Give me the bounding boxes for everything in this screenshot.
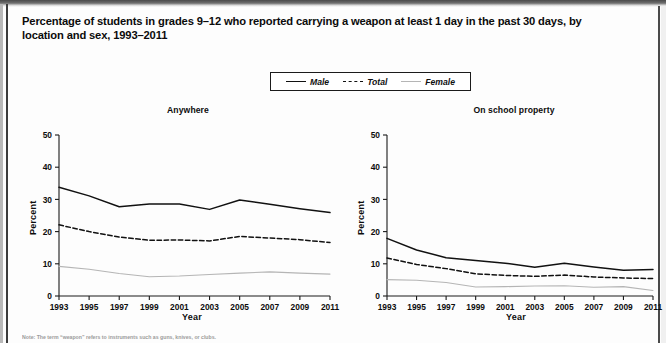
svg-text:50: 50	[43, 130, 53, 140]
svg-text:0: 0	[375, 291, 380, 301]
svg-text:1999: 1999	[466, 302, 485, 312]
legend-item-male: Male	[286, 77, 329, 87]
svg-text:2001: 2001	[496, 302, 515, 312]
svg-text:1995: 1995	[407, 302, 426, 312]
legend-label-male: Male	[310, 77, 329, 87]
y-axis-label-anywhere: Percent	[28, 201, 38, 235]
svg-text:30: 30	[43, 195, 53, 205]
svg-text:50: 50	[371, 130, 381, 140]
line-chart-anywhere: 0102030405019931995199719992001200320052…	[12, 100, 342, 335]
legend-line-female-icon	[401, 78, 421, 86]
svg-text:1997: 1997	[437, 302, 456, 312]
page-canvas: Percentage of students in grades 9–12 wh…	[0, 0, 666, 343]
svg-text:2007: 2007	[585, 302, 604, 312]
legend-line-total-icon	[343, 78, 363, 86]
chart-legend: Male Total Female	[270, 72, 471, 91]
line-chart-on-school-property: 0102030405019931995199719992001200320052…	[345, 100, 665, 335]
svg-text:2009: 2009	[614, 302, 633, 312]
svg-text:10: 10	[371, 259, 381, 269]
page-title-line1: Percentage of students in grades 9–12 wh…	[22, 15, 582, 41]
svg-text:20: 20	[43, 227, 53, 237]
chart-panel-anywhere: Anywhere 0102030405019931995199719992001…	[12, 100, 342, 335]
svg-text:2011: 2011	[644, 302, 663, 312]
svg-text:0: 0	[47, 291, 52, 301]
svg-text:2011: 2011	[321, 302, 340, 312]
chart-footnote: Note: The term “weapon” refers to instru…	[22, 334, 492, 340]
svg-text:2003: 2003	[525, 302, 544, 312]
svg-text:2003: 2003	[200, 302, 219, 312]
page-left-margin	[0, 4, 3, 343]
svg-text:2007: 2007	[260, 302, 279, 312]
svg-text:1999: 1999	[140, 302, 159, 312]
svg-text:1995: 1995	[80, 302, 99, 312]
legend-item-female: Female	[401, 77, 455, 87]
svg-text:1993: 1993	[378, 302, 397, 312]
svg-text:2005: 2005	[555, 302, 574, 312]
page-left-border	[6, 4, 8, 343]
svg-text:40: 40	[43, 162, 53, 172]
legend-item-total: Total	[343, 77, 387, 87]
page-title: Percentage of students in grades 9–12 wh…	[22, 14, 622, 42]
legend-label-female: Female	[425, 77, 455, 87]
x-axis-label-on-school-property: Year	[345, 312, 665, 322]
svg-text:10: 10	[43, 259, 53, 269]
svg-text:30: 30	[371, 195, 381, 205]
svg-text:2001: 2001	[170, 302, 189, 312]
legend-line-male-icon	[286, 78, 306, 86]
page-top-edge	[0, 0, 666, 7]
y-axis-label-on-school-property: Percent	[356, 201, 366, 235]
svg-text:20: 20	[371, 227, 381, 237]
svg-text:2005: 2005	[230, 302, 249, 312]
svg-text:2009: 2009	[291, 302, 310, 312]
svg-text:1993: 1993	[50, 302, 69, 312]
chart-panel-on-school-property: On school property 010203040501993199519…	[345, 100, 665, 335]
page-title-line2: 1993–2011	[113, 29, 167, 41]
svg-text:40: 40	[371, 162, 381, 172]
x-axis-label-anywhere: Year	[12, 312, 342, 322]
legend-label-total: Total	[367, 77, 387, 87]
svg-text:1997: 1997	[110, 302, 129, 312]
